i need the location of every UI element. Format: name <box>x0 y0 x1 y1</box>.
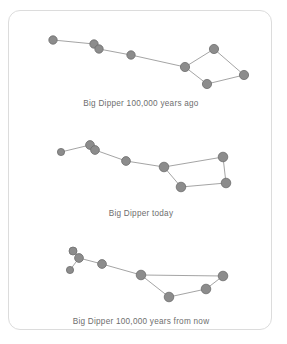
star-bowl-junction <box>159 162 169 172</box>
panel-past <box>49 36 249 89</box>
constellation-line <box>95 150 126 161</box>
constellation-line <box>141 275 223 276</box>
constellation-line <box>164 157 223 167</box>
star-bowl-top <box>209 44 218 53</box>
caption-panel-today: Big Dipper today <box>9 209 273 218</box>
star-bowl-bottom <box>202 79 211 88</box>
star-handle-mid <box>127 51 135 59</box>
constellation-canvas <box>9 11 273 331</box>
constellation-line <box>185 49 214 67</box>
star-bowl-bottom <box>164 292 174 302</box>
constellation-line <box>102 264 141 275</box>
star-bowl-junction <box>136 270 146 280</box>
star-handle-mid <box>122 157 131 166</box>
star-mizar <box>75 254 84 263</box>
star-handle-tip <box>49 36 57 44</box>
star-alcor <box>91 146 100 155</box>
constellation-line <box>169 289 206 297</box>
constellation-line <box>181 183 226 187</box>
constellation-line <box>99 49 131 55</box>
star-alcor <box>95 45 103 53</box>
star-handle-tip <box>57 148 64 155</box>
constellation-line <box>141 275 169 297</box>
star-bowl-bottom <box>176 182 186 192</box>
star-handle-mid <box>98 260 107 269</box>
panel-future <box>66 247 227 302</box>
star-alcor <box>66 266 73 273</box>
star-bowl-right <box>218 271 228 281</box>
constellation-line <box>126 161 164 167</box>
star-bowl-top-right <box>218 152 228 162</box>
star-bowl-right <box>221 178 231 188</box>
figure-card: Big Dipper 100,000 years ago Big Dipper … <box>8 10 272 330</box>
star-bowl-mid-right <box>201 284 211 294</box>
star-bowl-junction <box>180 62 189 71</box>
star-handle-tip <box>69 247 77 255</box>
caption-panel-future: Big Dipper 100,000 years from now <box>9 317 273 326</box>
panel-today <box>57 141 230 192</box>
star-bowl-right <box>239 70 248 79</box>
constellation-line <box>207 75 244 84</box>
caption-panel-past: Big Dipper 100,000 years ago <box>9 99 273 108</box>
constellation-line <box>53 40 94 44</box>
constellation-line <box>214 49 244 75</box>
constellation-line <box>131 55 185 67</box>
